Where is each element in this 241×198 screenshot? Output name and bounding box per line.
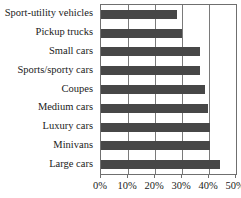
category-label: Sports/sporty cars [17,61,93,79]
plot-area [100,4,237,175]
bar [101,10,177,19]
category-label: Pickup trucks [36,23,93,41]
bar-chart: Sport-utility vehiclesPickup trucksSmall… [0,0,241,198]
bar [101,123,210,132]
x-axis-tick-label: 50% [218,180,241,191]
bar [101,29,182,38]
bar [101,160,220,169]
category-label: Coupes [62,80,94,98]
bar [101,47,200,56]
x-axis-tick [127,174,128,178]
x-axis-tick [181,174,182,178]
plot-inner [101,5,236,174]
category-label: Sport-utility vehicles [5,4,93,22]
bar [101,141,210,150]
category-axis-labels: Sport-utility vehiclesPickup trucksSmall… [0,4,96,173]
category-label: Large cars [49,155,93,173]
category-label: Minivans [53,136,93,154]
bar [101,66,200,75]
category-label: Medium cars [38,98,93,116]
x-axis-line [100,174,236,175]
x-axis-tick [235,174,236,178]
x-axis-tick [100,174,101,178]
category-label: Luxury cars [43,117,93,135]
x-axis-tick [154,174,155,178]
category-label: Small cars [49,42,93,60]
bar [101,104,208,113]
bar [101,85,205,94]
x-axis-tick [208,174,209,178]
